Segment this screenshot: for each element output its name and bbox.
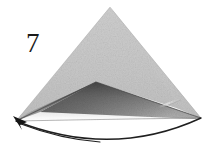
figure-container: 7 [0,0,211,153]
figure-number-label: 7 [26,27,56,59]
cone-illustration [0,0,211,153]
